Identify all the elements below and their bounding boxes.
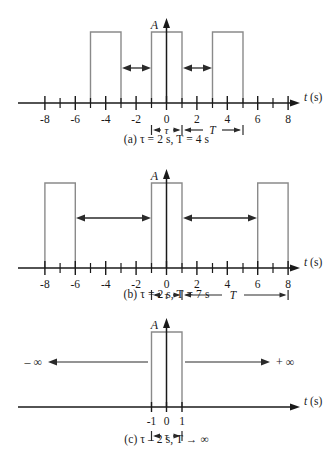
amplitude-label-c: A — [150, 318, 159, 332]
time-axis-arrowhead-a — [290, 100, 300, 107]
negative-infinity-label-c: – ∞ — [23, 355, 42, 369]
time-axis-label-b: t (s) — [304, 256, 322, 269]
panel-c-caption: (c) τ – 2 s, T → ∞ — [0, 433, 333, 445]
amplitude-label-a: A — [150, 18, 159, 32]
svg-text:-4: -4 — [101, 113, 111, 125]
svg-text:8: 8 — [285, 113, 291, 125]
time-axis-arrowhead-c — [290, 404, 300, 411]
svg-text:1: 1 — [179, 415, 185, 427]
pulse-train-panel-b: A t (s) -8 -6 -4 — [0, 155, 333, 310]
panel-b-caption: (b) τ = 2 s, T = 7 s — [0, 288, 333, 300]
panel-a-plot: A t (s) -8 — [0, 0, 333, 155]
svg-text:-1: -1 — [147, 415, 157, 427]
svg-text:2: 2 — [194, 113, 200, 125]
tick-labels-c: -1 0 1 — [147, 415, 185, 427]
panel-a-caption: (a) τ = 2 s, T = 4 s — [0, 133, 333, 145]
pulse-train-panel-a: A t (s) -8 — [0, 0, 333, 155]
positive-infinity-label-c: + ∞ — [276, 355, 294, 369]
amplitude-arrowhead-c — [163, 318, 170, 328]
time-axis-arrowhead-b — [290, 265, 300, 272]
svg-text:0: 0 — [164, 415, 170, 427]
time-axis-label-a: t (s) — [304, 91, 322, 104]
amplitude-label-b: A — [150, 169, 159, 183]
amplitude-arrowhead-b — [163, 169, 170, 179]
svg-text:-8: -8 — [40, 113, 50, 125]
time-axis-label-c: t (s) — [304, 395, 322, 408]
panel-b-plot: A t (s) -8 -6 -4 — [0, 155, 333, 310]
svg-text:-6: -6 — [71, 113, 81, 125]
svg-text:6: 6 — [255, 113, 261, 125]
svg-text:-2: -2 — [131, 113, 141, 125]
svg-text:4: 4 — [224, 113, 230, 125]
amplitude-arrowhead-a — [163, 18, 170, 28]
